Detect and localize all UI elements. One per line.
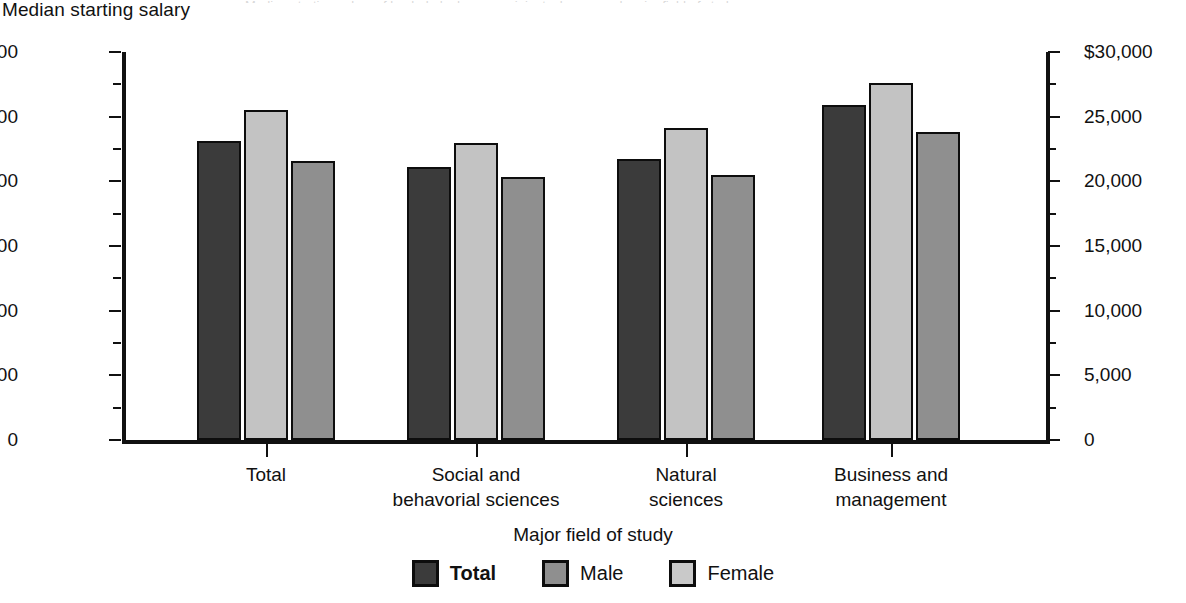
bar-female [291, 161, 335, 440]
axis-tick-minor [1048, 277, 1056, 279]
y-axis-tick-label-right: $30,000 [1084, 41, 1153, 63]
axis-tick-major [1048, 116, 1060, 118]
y-axis-tick-label-right: 0 [1084, 429, 1095, 451]
x-axis-title: Major field of study [0, 524, 1186, 546]
axis-tick-major [109, 439, 121, 441]
y-axis-tick-label-left: 25,000 [0, 106, 18, 128]
y-axis-right-line [1046, 52, 1050, 444]
category-tick [686, 444, 688, 457]
category-tick [891, 444, 893, 457]
axis-tick-major [109, 180, 121, 182]
axis-tick-major [109, 374, 121, 376]
y-axis-tick-label-right: 25,000 [1084, 106, 1142, 128]
axis-tick-major [1048, 439, 1060, 441]
axis-tick-minor [113, 407, 121, 409]
axis-tick-minor [113, 277, 121, 279]
legend-swatch-male [542, 560, 569, 587]
bar-male [244, 110, 288, 440]
chart-canvas: Median starting salary of bachelor's deg… [0, 0, 1186, 603]
axis-tick-major [1048, 374, 1060, 376]
axis-tick-minor [113, 83, 121, 85]
axis-tick-minor [1048, 213, 1056, 215]
x-axis-line [122, 440, 1050, 444]
axis-tick-major [1048, 245, 1060, 247]
chart-legend: TotalMaleFemale [0, 560, 1186, 587]
axis-tick-major [109, 245, 121, 247]
legend-item-total: Total [412, 560, 496, 587]
bar-total [197, 141, 241, 440]
y-axis-tick-label-left: 10,000 [0, 300, 18, 322]
bar-total [407, 167, 451, 440]
axis-tick-major [1048, 180, 1060, 182]
y-axis-title: Median starting salary [2, 0, 190, 21]
bar-female [711, 175, 755, 440]
bar-total [617, 159, 661, 440]
legend-swatch-female [669, 560, 696, 587]
bar-female [916, 132, 960, 440]
legend-label: Female [707, 562, 774, 585]
cutoff-title-sliver: Median starting salary of bachelor's deg… [245, 0, 945, 3]
axis-tick-minor [1048, 407, 1056, 409]
axis-tick-minor [113, 213, 121, 215]
y-axis-tick-label-left: 20,000 [0, 170, 18, 192]
axis-tick-minor [113, 342, 121, 344]
legend-label: Total [450, 562, 496, 585]
y-axis-tick-label-right: 20,000 [1084, 170, 1142, 192]
y-axis-tick-label-left: 0 [7, 429, 18, 451]
axis-tick-major [109, 116, 121, 118]
x-axis-category-label: Business andmanagement [766, 462, 1016, 512]
legend-label: Male [580, 562, 623, 585]
axis-tick-minor [1048, 83, 1056, 85]
axis-tick-minor [1048, 148, 1056, 150]
y-axis-tick-label-right: 5,000 [1084, 364, 1132, 386]
axis-tick-major [109, 51, 121, 53]
bar-total [822, 105, 866, 440]
category-tick [266, 444, 268, 457]
y-axis-tick-label-left: 5,000 [0, 364, 18, 386]
legend-item-male: Male [542, 560, 623, 587]
y-axis-tick-label-left: $30,000 [0, 41, 18, 63]
y-axis-tick-label-left: 15,000 [0, 235, 18, 257]
legend-swatch-total [412, 560, 439, 587]
category-tick [476, 444, 478, 457]
axis-tick-major [1048, 310, 1060, 312]
plot-area: $30,000$30,00025,00025,00020,00020,00015… [122, 52, 1050, 440]
bar-male [664, 128, 708, 440]
bar-male [869, 83, 913, 440]
y-axis-tick-label-right: 15,000 [1084, 235, 1142, 257]
axis-tick-major [1048, 51, 1060, 53]
legend-item-female: Female [669, 560, 774, 587]
bar-female [501, 177, 545, 440]
y-axis-tick-label-right: 10,000 [1084, 300, 1142, 322]
axis-tick-major [109, 310, 121, 312]
axis-tick-minor [1048, 342, 1056, 344]
y-axis-left-line [122, 52, 126, 444]
axis-tick-minor [113, 148, 121, 150]
bar-male [454, 143, 498, 440]
